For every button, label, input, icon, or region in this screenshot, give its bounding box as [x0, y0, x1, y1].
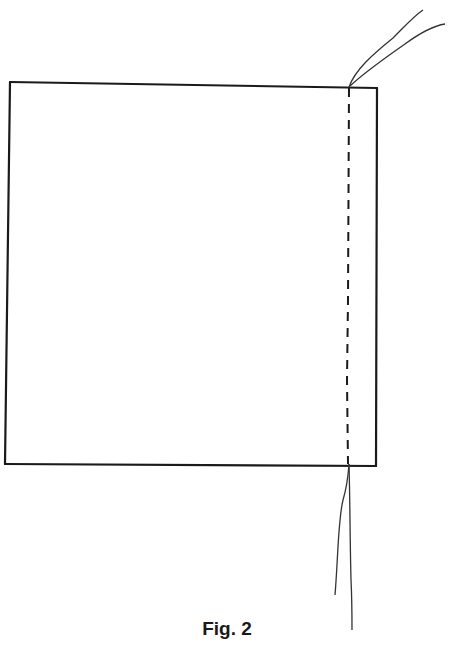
figure-caption: Fig. 2: [0, 618, 454, 640]
thread-top: [349, 10, 445, 87]
diagram-canvas: [0, 0, 454, 656]
thread-bottom: [335, 464, 352, 630]
fabric-square: [5, 82, 377, 466]
stitch-line: [347, 88, 349, 464]
